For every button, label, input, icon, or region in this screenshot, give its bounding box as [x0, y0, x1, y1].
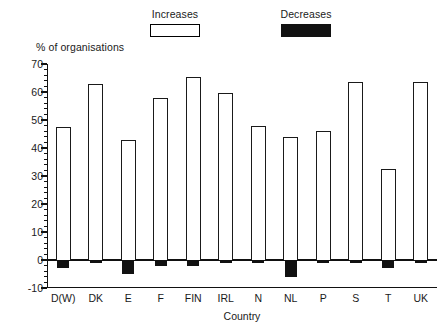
y-tick-label: 60 — [31, 87, 43, 98]
y-tick-label: 10 — [31, 227, 43, 238]
bar-group[interactable] — [307, 64, 340, 288]
bar-group[interactable] — [405, 64, 438, 288]
x-tick-label-dk: DK — [88, 292, 103, 304]
x-tick-label-fin: FIN — [185, 292, 202, 304]
bar-group[interactable] — [275, 64, 308, 288]
bar-increases[interactable] — [348, 82, 363, 260]
bar-chart-figure: Increases Decreases % of organisations 7… — [0, 0, 445, 334]
x-tick-label-uk: UK — [413, 292, 428, 304]
bar-group[interactable] — [210, 64, 243, 288]
y-tick-label: 0 — [37, 255, 43, 266]
legend-label-increases: Increases — [132, 8, 218, 20]
filled-box-swatch — [281, 24, 331, 37]
y-tick-label: 30 — [31, 171, 43, 182]
bar-increases[interactable] — [218, 93, 233, 260]
bar-increases[interactable] — [251, 126, 266, 260]
bar-group[interactable] — [145, 64, 178, 288]
bar-decreases[interactable] — [122, 260, 134, 274]
bar-decreases[interactable] — [317, 260, 329, 263]
bar-increases[interactable] — [153, 98, 168, 260]
bar-increases[interactable] — [56, 127, 71, 260]
x-tick-label-t: T — [385, 292, 391, 304]
x-axis-title: Country — [47, 310, 437, 323]
bar-decreases[interactable] — [220, 260, 232, 263]
x-tick-label-f: F — [158, 292, 164, 304]
y-tick-label: 20 — [31, 199, 43, 210]
bar-group[interactable] — [242, 64, 275, 288]
x-tick-label-irl: IRL — [218, 292, 234, 304]
legend-entry-increases: Increases — [132, 8, 218, 37]
x-tick-label-p: P — [320, 292, 327, 304]
y-tick-label: 50 — [31, 115, 43, 126]
bar-increases[interactable] — [283, 137, 298, 260]
bar-decreases[interactable] — [155, 260, 167, 266]
bar-increases[interactable] — [121, 140, 136, 260]
bar-decreases[interactable] — [252, 260, 264, 263]
x-tick-label-nl: NL — [284, 292, 297, 304]
bar-decreases[interactable] — [187, 260, 199, 266]
x-tick-label-e: E — [125, 292, 132, 304]
bar-group[interactable] — [47, 64, 80, 288]
bar-decreases[interactable] — [285, 260, 297, 277]
outlined-box-swatch — [150, 24, 200, 37]
bar-increases[interactable] — [316, 131, 331, 260]
bar-group[interactable] — [340, 64, 373, 288]
bar-decreases[interactable] — [415, 260, 427, 263]
bar-decreases[interactable] — [382, 260, 394, 268]
legend-entry-decreases: Decreases — [258, 8, 354, 37]
bar-increases[interactable] — [381, 169, 396, 260]
y-tick-label: 40 — [31, 143, 43, 154]
bar-increases[interactable] — [186, 77, 201, 260]
x-tick-label-n: N — [254, 292, 262, 304]
bar-group[interactable] — [177, 64, 210, 288]
bar-group[interactable] — [112, 64, 145, 288]
legend-label-decreases: Decreases — [258, 8, 354, 20]
bar-decreases[interactable] — [350, 260, 362, 263]
bar-increases[interactable] — [413, 82, 428, 260]
y-tick-label: -10 — [28, 283, 43, 294]
bar-group[interactable] — [372, 64, 405, 288]
plot-area: 706050403020100-10 D(W)DKEFFINIRLNNLPSTU… — [47, 64, 437, 288]
y-axis-title: % of organisations — [36, 41, 124, 54]
x-tick-label-s: S — [352, 292, 359, 304]
bar-decreases[interactable] — [57, 260, 69, 268]
x-tick-label-d-w: D(W) — [51, 292, 76, 304]
bar-increases[interactable] — [88, 84, 103, 260]
bar-decreases[interactable] — [90, 260, 102, 263]
bar-group[interactable] — [80, 64, 113, 288]
y-tick-label: 70 — [31, 59, 43, 70]
